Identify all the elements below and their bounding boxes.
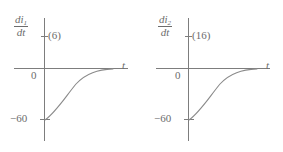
t-axis-label: t [266,60,269,71]
peak-value-label: (6) [48,30,61,41]
min-value-label: −60 [10,113,27,124]
exponential-curve [45,69,113,120]
y-axis-denominator: dt [14,27,28,39]
y-axis-label: di2 dt [158,14,172,39]
min-value-label: −60 [154,113,171,124]
origin-label: 0 [31,70,37,81]
plot-panel-left: di1 dt (6) 0 −60 t [0,0,141,152]
y-axis-subscript: 1 [24,19,28,27]
y-axis-denominator: dt [158,27,172,39]
y-axis-label: di1 dt [14,14,28,39]
t-axis-label: t [122,60,125,71]
origin-label: 0 [175,70,181,81]
y-axis-subscript: 2 [168,19,172,27]
exponential-curve [189,69,257,120]
plot-panel-right: di2 dt (16) 0 −60 t [142,0,283,152]
y-axis-numerator: di [159,13,168,25]
peak-value-label: (16) [192,30,210,41]
figure-canvas: di1 dt (6) 0 −60 t di2 dt (16) 0 −60 t [0,0,283,152]
y-axis-numerator: di [15,13,24,25]
